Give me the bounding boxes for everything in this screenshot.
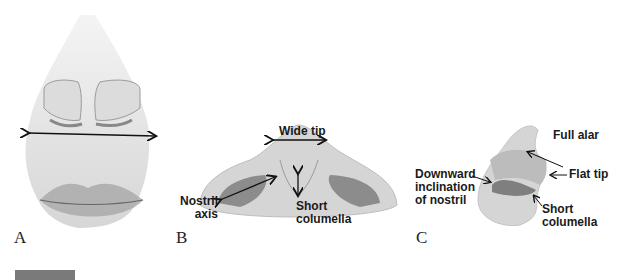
panel-label-a: A — [14, 228, 26, 248]
label-short-columella-b: Short columella — [296, 200, 351, 226]
label-downward-inclination: Downward inclination of nostril — [415, 168, 476, 207]
label-flat-tip: Flat tip — [569, 168, 608, 181]
label-full-alar: Full alar — [553, 129, 599, 142]
panel-label-c: C — [416, 228, 427, 248]
panel-a-nose-front — [26, 15, 155, 228]
figure-caption-bar — [15, 270, 75, 280]
label-wide-tip: Wide tip — [279, 125, 326, 138]
panel-label-b: B — [176, 228, 187, 248]
label-nostril-axis: Nostril axis — [180, 195, 218, 221]
illustration-canvas — [0, 0, 618, 280]
label-short-columella-c: Short columella — [542, 203, 597, 229]
